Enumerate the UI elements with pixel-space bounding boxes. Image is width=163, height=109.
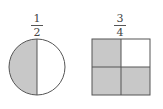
quarter-bottom-right — [121, 67, 150, 95]
quarter-bottom-left — [92, 67, 121, 95]
square-three-quarters-shaded — [92, 39, 150, 95]
quarter-top-left — [92, 39, 121, 67]
fraction-diagram — [0, 0, 163, 109]
circle-half-shaded — [9, 39, 65, 95]
shaded-half — [9, 39, 37, 95]
